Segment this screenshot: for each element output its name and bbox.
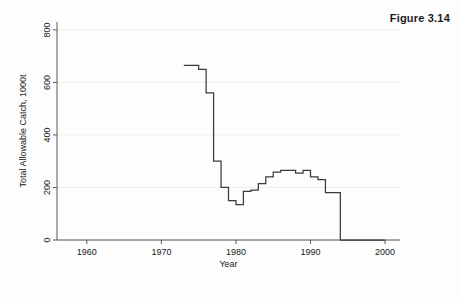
x-tick-label: 2000 <box>375 247 395 257</box>
grid-lines <box>57 30 400 240</box>
y-tick-label: 200 <box>42 180 52 195</box>
x-axis-title: Year <box>219 259 237 269</box>
x-tick-label: 1970 <box>151 247 171 257</box>
axis-ticks <box>53 30 385 244</box>
chart-plot-area: 020040060080019601970198019902000 Total … <box>0 0 460 298</box>
x-tick-label: 1980 <box>226 247 246 257</box>
x-tick-label: 1960 <box>77 247 97 257</box>
data-series <box>184 65 385 240</box>
series-line-tac <box>184 65 385 240</box>
y-axis-title: Total Allowable Catch, 1000t <box>18 74 28 188</box>
axis-tick-labels: 020040060080019601970198019902000 <box>42 22 395 257</box>
y-tick-label: 400 <box>42 127 52 142</box>
y-tick-label: 0 <box>42 237 52 242</box>
y-tick-label: 800 <box>42 22 52 37</box>
figure-root: Figure 3.14 0200400600800196019701980199… <box>0 0 460 298</box>
axis-lines <box>57 22 400 240</box>
y-tick-label: 600 <box>42 75 52 90</box>
line-chart: 020040060080019601970198019902000 Total … <box>0 0 460 298</box>
x-tick-label: 1990 <box>301 247 321 257</box>
